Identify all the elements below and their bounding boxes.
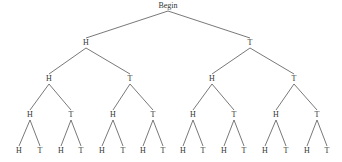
tree-node-tails: T: [292, 75, 297, 83]
tree-node-heads: H: [221, 147, 227, 155]
tree-node-heads: H: [209, 75, 215, 83]
tree-edge: [61, 120, 71, 146]
tree-edge: [86, 48, 130, 74]
tree-node-heads: H: [27, 111, 33, 119]
tree-edge: [212, 84, 234, 110]
tree-edge: [49, 84, 71, 110]
tree-edge: [250, 48, 294, 74]
tree-edge: [71, 120, 81, 146]
tree-node-heads: H: [190, 111, 196, 119]
tree-node-tails: T: [128, 75, 133, 83]
tree-node-heads: H: [180, 147, 186, 155]
tree-node-heads: H: [58, 147, 64, 155]
tree-edge: [234, 120, 244, 146]
tree-edge: [143, 120, 153, 146]
tree-node-heads: H: [140, 147, 146, 155]
tree-node-tails: T: [242, 147, 247, 155]
tree-edge: [294, 84, 317, 110]
tree-edge: [317, 120, 327, 146]
tree-node-heads: H: [16, 147, 22, 155]
tree-edge: [113, 120, 123, 146]
tree-edge: [113, 84, 130, 110]
tree-node-tails: T: [325, 147, 330, 155]
tree-node-heads: H: [83, 39, 89, 47]
tree-node-tails: T: [69, 111, 74, 119]
tree-edge: [193, 120, 203, 146]
tree-node-heads: H: [110, 111, 116, 119]
tree-node-heads: H: [99, 147, 105, 155]
tree-edge: [224, 120, 234, 146]
tree-edge: [183, 120, 193, 146]
tree-edge: [276, 120, 286, 146]
tree-node-tails: T: [38, 147, 43, 155]
tree-edge: [102, 120, 113, 146]
tree-edge: [212, 48, 250, 74]
root-node-begin: Begin: [158, 2, 177, 10]
tree-edge: [153, 120, 163, 146]
tree-node-tails: T: [79, 147, 84, 155]
tree-node-tails: T: [284, 147, 289, 155]
tree-node-tails: T: [121, 147, 126, 155]
tree-node-tails: T: [248, 39, 253, 47]
tree-edge: [168, 11, 250, 38]
tree-edge: [86, 11, 168, 38]
tree-edge: [49, 48, 86, 74]
tree-node-tails: T: [151, 111, 156, 119]
tree-edge: [265, 120, 276, 146]
tree-node-tails: T: [315, 111, 320, 119]
tree-node-tails: T: [161, 147, 166, 155]
tree-edge: [276, 84, 294, 110]
tree-edge: [307, 120, 317, 146]
tree-node-heads: H: [262, 147, 268, 155]
tree-node-heads: H: [46, 75, 52, 83]
tree-node-heads: H: [273, 111, 279, 119]
tree-edge: [19, 120, 30, 146]
tree-edge: [30, 120, 40, 146]
tree-node-tails: T: [232, 111, 237, 119]
tree-node-tails: T: [201, 147, 206, 155]
tree-edge: [193, 84, 212, 110]
tree-node-heads: H: [304, 147, 310, 155]
tree-edge: [30, 84, 49, 110]
tree-edge: [130, 84, 153, 110]
